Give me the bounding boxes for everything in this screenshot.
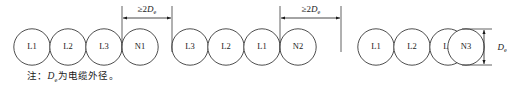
cable-group-1: L1 L2 L3 N1 — [14, 29, 158, 65]
cable-item: L2 — [394, 29, 430, 65]
cable-label: L2 — [407, 41, 416, 51]
dimension-subscript: e — [504, 46, 507, 53]
dimension-subscript: e — [154, 8, 157, 15]
dimension-subscript: e — [318, 8, 321, 15]
cable-item: L1 — [244, 29, 280, 65]
dimension-label-gap-2: ≥2De — [302, 4, 321, 15]
cable-item: L2 — [208, 29, 244, 65]
dimension-label-gap-1: ≥2De — [138, 4, 157, 15]
cable-item: N3 — [448, 29, 484, 65]
cable-arrangement-figure: L1 L2 L3 N1 L3 L2 — [0, 0, 516, 87]
cable-item: L3 — [172, 29, 208, 65]
cable-label: N1 — [135, 41, 145, 51]
note-suffix: 为电缆外径。 — [58, 71, 119, 81]
cable-label: L1 — [257, 41, 266, 51]
dimension-label-outer-diameter: De — [496, 42, 507, 53]
cable-label: L2 — [63, 41, 72, 51]
cable-group-3: L1 L2 L3 N3 — [358, 29, 484, 65]
cable-label: L3 — [185, 41, 194, 51]
cable-label: L1 — [27, 41, 36, 51]
cable-item: L2 — [50, 29, 86, 65]
cable-group-2: L3 L2 L1 N2 — [172, 29, 316, 65]
note-prefix: 注： — [27, 71, 47, 81]
cable-item: L3 — [86, 29, 122, 65]
cable-item: N2 — [280, 29, 316, 65]
cable-label: L2 — [221, 41, 230, 51]
cable-label: L3 — [99, 41, 108, 51]
figure-note: 注：De为电缆外径。 — [27, 68, 119, 83]
cable-item: N1 — [122, 29, 158, 65]
cable-label: L1 — [371, 41, 380, 51]
cable-item: L1 — [358, 29, 394, 65]
cable-label: N2 — [293, 41, 303, 51]
cable-label: N3 — [461, 41, 471, 51]
cable-item: L1 — [14, 29, 50, 65]
